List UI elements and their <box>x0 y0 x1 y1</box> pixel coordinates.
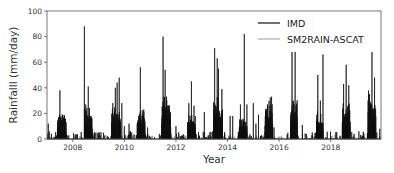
x-axis-label: Year <box>202 153 226 165</box>
x-tick-label: 2008 <box>63 143 82 152</box>
x-tick-label: 2018 <box>321 143 340 152</box>
y-axis-label: Rainfalll (mm/day) <box>7 27 19 124</box>
rainfall-time-series-chart: 020406080100 200820102012201420162018 Ye… <box>0 0 394 173</box>
x-tick-label: 2014 <box>218 143 237 152</box>
x-tick-label: 2012 <box>166 143 185 152</box>
legend-imd-label: IMD <box>287 18 305 29</box>
y-tick-label: 40 <box>32 84 42 93</box>
y-tick-label: 100 <box>28 7 43 16</box>
x-tick-label: 2016 <box>270 143 289 152</box>
legend: IMD SM2RAIN-ASCAT <box>252 13 379 49</box>
x-axis-ticks: 200820102012201420162018 <box>63 139 340 152</box>
y-tick-label: 60 <box>32 58 42 67</box>
y-tick-label: 80 <box>32 32 42 41</box>
legend-ascat-label: SM2RAIN-ASCAT <box>287 34 364 45</box>
y-tick-label: 20 <box>32 109 42 118</box>
x-tick-label: 2010 <box>115 143 134 152</box>
y-axis-ticks: 020406080100 <box>28 7 47 144</box>
y-tick-label: 0 <box>37 135 42 144</box>
